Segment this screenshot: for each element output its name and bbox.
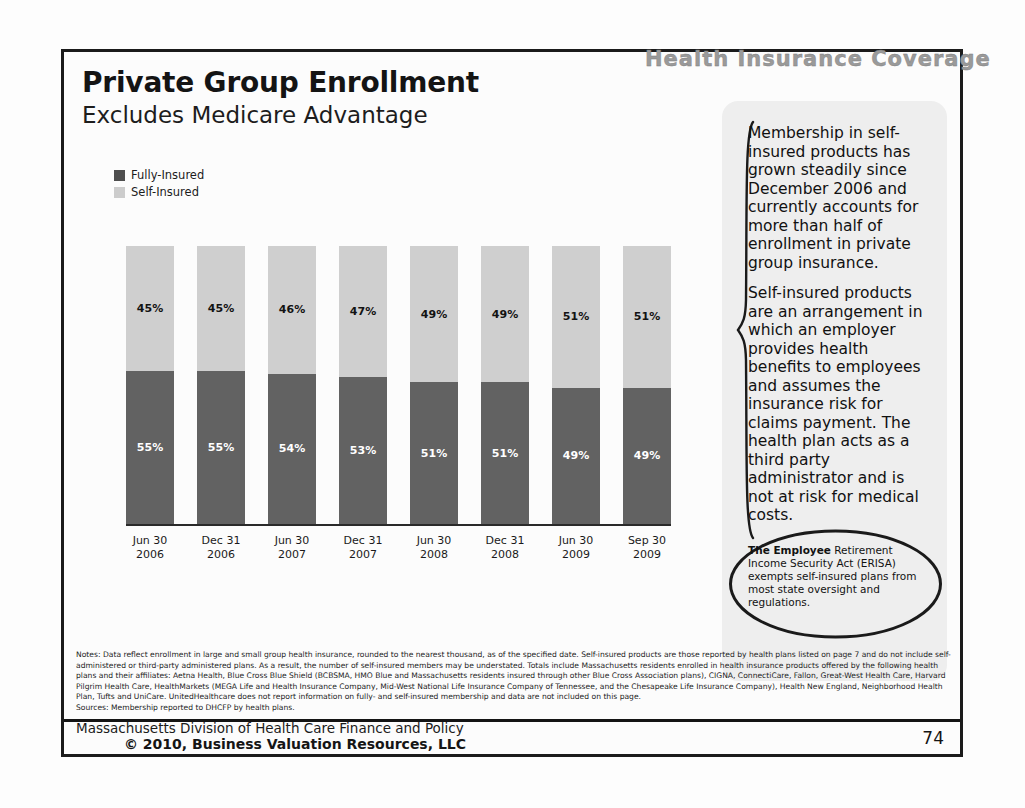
legend-swatch-icon: [114, 187, 125, 198]
bar-column: 49%51%: [410, 246, 458, 524]
footnote-sources: Sources: Membership reported to DHCFP by…: [76, 703, 952, 714]
bar-column: 51%49%: [552, 246, 600, 524]
page-number: 74: [922, 728, 944, 748]
oval-callout-lead: The Employee: [748, 544, 831, 556]
x-axis-line: [126, 524, 671, 526]
bar-segment-fully-insured: 55%: [126, 371, 174, 524]
bar-segment-self-insured: 46%: [268, 246, 316, 374]
scanned-page: Health Insurance Coverage Private Group …: [0, 0, 1025, 808]
bar-segment-fully-insured: 51%: [481, 382, 529, 524]
oval-callout-text: The Employee Retirement Income Security …: [748, 544, 920, 609]
x-axis-label: Sep 302009: [623, 534, 671, 562]
x-axis-labels: Jun 302006Dec 312006Jun 302007Dec 312007…: [126, 534, 671, 562]
chart-plot-area: 45%55%45%55%46%54%47%53%49%51%49%51%51%4…: [126, 246, 671, 524]
legend-swatch-icon: [114, 170, 125, 181]
x-axis-label: Jun 302006: [126, 534, 174, 562]
chart-legend: Fully-Insured Self-Insured: [114, 167, 204, 201]
bar-segment-self-insured: 45%: [126, 246, 174, 371]
x-axis-label: Jun 302009: [552, 534, 600, 562]
bar-segment-self-insured: 49%: [410, 246, 458, 382]
page-title: Private Group Enrollment: [82, 66, 479, 99]
bar-column: 46%54%: [268, 246, 316, 524]
bar-segment-self-insured: 49%: [481, 246, 529, 382]
bar-segment-fully-insured: 51%: [410, 382, 458, 524]
footnote-body: Notes: Data reflect enrollment in large …: [76, 650, 952, 703]
side-paragraph-1: Membership in self-insured products has …: [748, 124, 933, 272]
bar-segment-fully-insured: 53%: [339, 377, 387, 524]
deck-header-title: Health Insurance Coverage: [645, 47, 965, 71]
bar-segment-fully-insured: 49%: [552, 388, 600, 524]
legend-label: Fully-Insured: [131, 168, 204, 182]
x-axis-label: Jun 302007: [268, 534, 316, 562]
bar-segment-fully-insured: 54%: [268, 374, 316, 524]
bar-segment-self-insured: 51%: [623, 246, 671, 388]
bar-segment-fully-insured: 55%: [197, 371, 245, 524]
x-axis-label: Dec 312008: [481, 534, 529, 562]
legend-label: Self-Insured: [131, 185, 199, 199]
footnotes: Notes: Data reflect enrollment in large …: [76, 650, 952, 713]
legend-item-self-insured: Self-Insured: [114, 184, 204, 200]
bar-segment-fully-insured: 49%: [623, 388, 671, 524]
bar-segment-self-insured: 47%: [339, 246, 387, 377]
page-subtitle: Excludes Medicare Advantage: [82, 102, 428, 128]
legend-item-fully-insured: Fully-Insured: [114, 167, 204, 183]
footer-source-text: Massachusetts Division of Health Care Fi…: [76, 720, 464, 736]
footer-copyright: © 2010, Business Valuation Resources, LL…: [124, 736, 466, 752]
bar-column: 47%53%: [339, 246, 387, 524]
x-axis-label: Jun 302008: [410, 534, 458, 562]
stacked-bar-chart: 45%55%45%55%46%54%47%53%49%51%49%51%51%4…: [126, 246, 671, 524]
bar-segment-self-insured: 45%: [197, 246, 245, 371]
bar-segment-self-insured: 51%: [552, 246, 600, 388]
bar-column: 45%55%: [126, 246, 174, 524]
x-axis-label: Dec 312006: [197, 534, 245, 562]
side-paragraph-2: Self-insured products are an arrangement…: [748, 284, 933, 525]
slide-frame: Private Group Enrollment Excludes Medica…: [61, 49, 963, 757]
bar-column: 45%55%: [197, 246, 245, 524]
bar-column: 51%49%: [623, 246, 671, 524]
bar-column: 49%51%: [481, 246, 529, 524]
x-axis-label: Dec 312007: [339, 534, 387, 562]
